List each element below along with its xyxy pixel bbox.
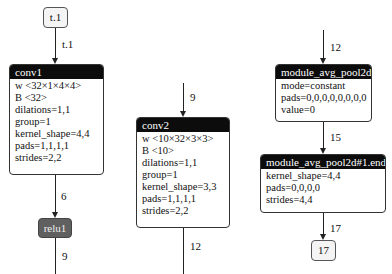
- edge-label: 17: [330, 222, 341, 234]
- edge-label: 12: [330, 41, 341, 53]
- edge-label: 12: [190, 240, 201, 252]
- node-attr: group=1: [142, 169, 224, 181]
- node-attr: pads=0,0,0,0,0,0,0,0: [281, 92, 366, 104]
- node-attr: kernel_shape=4,4: [15, 128, 98, 140]
- edge-relu1-out: [55, 238, 56, 274]
- node-attr: group=1: [15, 116, 98, 128]
- node-title: relu1: [44, 222, 67, 234]
- edge-input-conv1: [55, 28, 56, 58]
- edge-conv2-out: [183, 228, 184, 274]
- edge-label: 6: [61, 190, 67, 202]
- output-label: 17: [318, 244, 329, 256]
- node-attr: w <32×1×4×4>: [15, 80, 98, 92]
- node-conv1[interactable]: conv1 w <32×1×4×4> B <32> dilations=1,1 …: [9, 64, 104, 175]
- output-node-17[interactable]: 17: [311, 240, 336, 261]
- node-pad[interactable]: module_avg_pool2d mode=constant pads=0,0…: [275, 64, 372, 122]
- node-avgpool[interactable]: module_avg_pool2d#1.end kernel_shape=4,4…: [260, 154, 386, 213]
- node-attr: strides=2,2: [142, 205, 224, 217]
- node-attr: strides=4,4: [266, 194, 380, 206]
- node-attr: B <10>: [142, 145, 224, 157]
- node-conv2[interactable]: conv2 w <10×32×3×3> B <10> dilations=1,1…: [136, 117, 230, 228]
- node-attr: dilations=1,1: [15, 104, 98, 116]
- node-attr: B <32>: [15, 92, 98, 104]
- node-attr: strides=2,2: [15, 152, 98, 164]
- edge-into-conv2: [183, 83, 184, 111]
- edge-pad-avgpool: [323, 122, 324, 148]
- node-attr: value=0: [281, 104, 366, 116]
- node-attr: pads=0,0,0,0: [266, 182, 380, 194]
- node-attr: pads=1,1,1,1: [15, 140, 98, 152]
- edge-label: 9: [62, 250, 68, 262]
- node-attr: kernel_shape=4,4: [266, 170, 380, 182]
- node-title: module_avg_pool2d#1.end: [261, 155, 385, 169]
- node-title: conv1: [10, 65, 103, 79]
- edge-label: 15: [330, 131, 341, 143]
- node-title: conv2: [137, 118, 229, 132]
- edge-avgpool-output: [323, 213, 324, 234]
- node-relu1[interactable]: relu1: [38, 218, 72, 238]
- node-attr: kernel_shape=3,3: [142, 181, 224, 193]
- edge-label: t.1: [62, 38, 73, 50]
- edge-into-pad: [323, 30, 324, 58]
- input-node-t1[interactable]: t.1: [43, 7, 68, 28]
- input-label: t.1: [50, 11, 61, 23]
- node-attr: mode=constant: [281, 80, 366, 92]
- node-attr: dilations=1,1: [142, 157, 224, 169]
- node-attr: pads=1,1,1,1: [142, 193, 224, 205]
- node-attr: w <10×32×3×3>: [142, 133, 224, 145]
- node-title: module_avg_pool2d: [276, 65, 371, 79]
- edge-conv1-relu1: [55, 175, 56, 212]
- edge-label: 9: [190, 91, 196, 103]
